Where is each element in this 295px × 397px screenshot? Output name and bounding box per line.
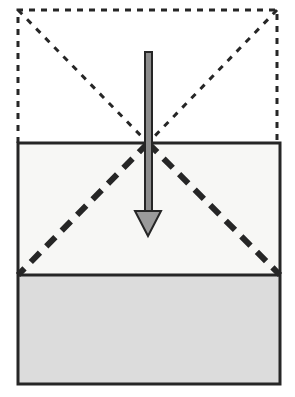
lower-region — [18, 275, 280, 384]
diagram-canvas — [0, 0, 295, 397]
diagram-root — [0, 0, 295, 397]
arrow-shaft — [145, 52, 152, 214]
